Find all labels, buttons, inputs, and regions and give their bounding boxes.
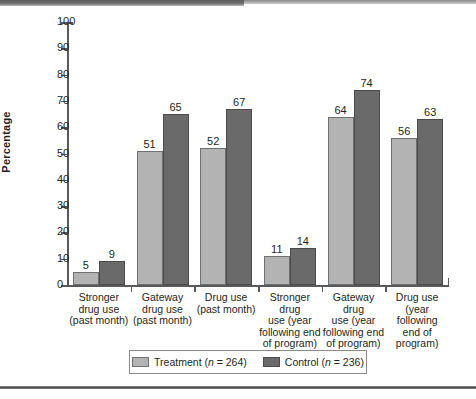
legend-item-control[interactable]: Control (n = 236) xyxy=(263,356,364,368)
bar-value-label: 56 xyxy=(398,125,410,137)
x-tick-3 xyxy=(258,285,260,292)
x-axis-label-line: Stronger drug xyxy=(258,292,322,315)
x-axis-label-group-5: Gateway druguse (yearfollowing endof pro… xyxy=(322,292,386,350)
bar-value-label: 9 xyxy=(109,248,115,260)
bar-control-group-2: 65 xyxy=(163,114,189,285)
x-axis-label-line: program) xyxy=(385,338,449,350)
x-tick-5 xyxy=(385,285,387,292)
scan-artifact-bottom-rule xyxy=(0,386,476,389)
bar-control-group-4: 14 xyxy=(290,248,316,285)
bar-value-label: 5 xyxy=(83,259,89,271)
chart-page: Percentage 0102030405060708090100 595165… xyxy=(0,0,476,399)
y-axis-title: Percentage xyxy=(0,111,12,172)
bar-value-label: 63 xyxy=(424,106,436,118)
x-axis-label-line: Drug use xyxy=(385,292,449,304)
x-axis-label-line: (past month) xyxy=(194,304,258,316)
x-tick-4 xyxy=(322,285,324,292)
bar-control-group-6: 63 xyxy=(417,119,443,285)
x-axis-label-group-3: Drug use(past month) xyxy=(194,292,258,315)
bar-treatment-group-4: 11 xyxy=(264,256,290,285)
bar-treatment-group-5: 64 xyxy=(328,117,354,285)
control-swatch xyxy=(263,357,280,367)
x-tick-1 xyxy=(131,285,133,292)
legend-label: Control (n = 236) xyxy=(285,356,364,368)
bar-control-group-5: 74 xyxy=(354,90,380,285)
bar-value-label: 14 xyxy=(297,235,309,247)
bar-control-group-1: 9 xyxy=(99,261,125,285)
x-axis-label-line: (past month) xyxy=(131,315,195,327)
bar-value-label: 65 xyxy=(169,101,181,113)
bar-value-label: 51 xyxy=(143,138,155,150)
bar-value-label: 67 xyxy=(233,96,245,108)
bar-treatment-group-3: 52 xyxy=(200,148,226,285)
chart-legend: Treatment (n = 264)Control (n = 236) xyxy=(129,350,367,374)
x-axis-label-line: of program) xyxy=(322,338,386,350)
x-axis-label-group-1: Strongerdrug use(past month) xyxy=(67,292,131,327)
bar-treatment-group-1: 5 xyxy=(73,272,99,285)
x-axis-label-line: Gateway drug xyxy=(322,292,386,315)
x-axis-right-cap xyxy=(448,278,450,286)
x-axis-label-line: (past month) xyxy=(67,315,131,327)
x-axis-label-group-6: Drug use(year followingend ofprogram) xyxy=(385,292,449,350)
x-axis-label-group-2: Gatewaydrug use(past month) xyxy=(131,292,195,327)
legend-label: Treatment (n = 264) xyxy=(154,356,247,368)
treatment-swatch xyxy=(132,357,149,367)
bar-value-label: 11 xyxy=(271,243,282,255)
x-axis-label-line: (year following xyxy=(385,304,449,327)
x-axis-label-group-4: Stronger druguse (yearfollowing endof pr… xyxy=(258,292,322,350)
x-axis-label-line: Drug use xyxy=(194,292,258,304)
bar-value-label: 64 xyxy=(334,104,346,116)
scan-artifact-top-band-right xyxy=(244,0,476,4)
bar-value-label: 74 xyxy=(360,77,372,89)
legend-item-treatment[interactable]: Treatment (n = 264) xyxy=(132,356,247,368)
bar-value-label: 52 xyxy=(207,135,219,147)
scan-artifact-top-band xyxy=(0,0,244,6)
x-tick-2 xyxy=(194,285,196,292)
bar-treatment-group-2: 51 xyxy=(137,151,163,285)
plot-area: 0102030405060708090100 59516552671114647… xyxy=(67,22,449,285)
x-axis-label-line: Gateway xyxy=(131,292,195,304)
bar-treatment-group-6: 56 xyxy=(391,138,417,285)
x-axis-label-line: of program) xyxy=(258,338,322,350)
bar-control-group-3: 67 xyxy=(226,109,252,285)
x-axis-label-line: Stronger xyxy=(67,292,131,304)
